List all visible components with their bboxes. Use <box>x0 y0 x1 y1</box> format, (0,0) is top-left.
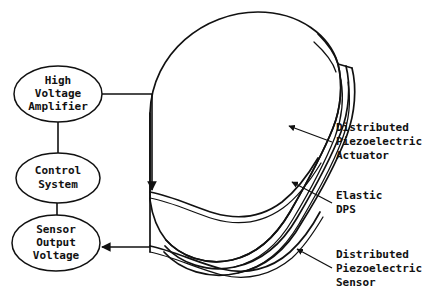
sensor-label-line-2: Piezoelectric <box>336 262 422 275</box>
sensor-label-line-3: Sensor <box>336 276 376 289</box>
high-voltage-amplifier-line-3: Amplifier <box>28 100 88 113</box>
diagram-canvas: High Voltage Amplifier Control System Se… <box>0 0 447 307</box>
actuator-label-line-1: Distributed <box>336 121 409 134</box>
node-control-system[interactable]: Control System <box>16 153 100 203</box>
callout-elastic-dps: Elastic DPS <box>292 182 382 216</box>
control-system-line-2: System <box>38 178 78 191</box>
shell-cross-section-cap <box>338 64 352 68</box>
elastic-dps-label-line-2: DPS <box>336 203 356 216</box>
callout-distributed-piezoelectric-sensor: Distributed Piezoelectric Sensor <box>297 248 422 289</box>
connector-amplifier-to-shell <box>102 94 152 190</box>
node-high-voltage-amplifier[interactable]: High Voltage Amplifier <box>14 66 102 122</box>
sensor-output-voltage-line-1: Sensor <box>36 223 76 236</box>
control-system-line-1: Control <box>35 164 81 177</box>
sensor-output-voltage-line-2: Output <box>36 236 76 249</box>
sensor-output-voltage-line-3: Voltage <box>33 249 80 262</box>
sensor-label-line-1: Distributed <box>336 248 409 261</box>
high-voltage-amplifier-line-1: High <box>45 74 72 87</box>
actuator-label-line-3: Actuator <box>336 149 389 162</box>
high-voltage-amplifier-line-2: Voltage <box>35 87 82 100</box>
node-sensor-output-voltage[interactable]: Sensor Output Voltage <box>12 215 100 271</box>
leader-sensor <box>297 249 332 268</box>
actuator-label-line-2: Piezoelectric <box>336 135 422 148</box>
shell-diagram: High Voltage Amplifier Control System Se… <box>0 0 447 307</box>
elastic-dps-label-line-1: Elastic <box>336 189 382 202</box>
shell-assembly <box>150 12 355 277</box>
